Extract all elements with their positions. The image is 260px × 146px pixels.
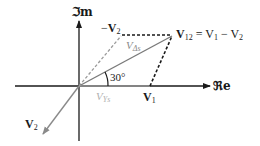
neg-v2-label: −V2 (101, 22, 120, 36)
phasor-svg (0, 0, 260, 146)
imag-axis-label: ℑm (72, 6, 93, 18)
angle-arc (105, 72, 108, 86)
real-axis-label: ℜe (213, 80, 231, 92)
angle-label: 30° (110, 72, 125, 83)
v2-vector (43, 86, 79, 134)
v1-label: V1 (143, 91, 156, 105)
v2-label: V2 (25, 118, 38, 132)
phasor-diagram: ℑm ℜe −V2 V12 = V1 − V2 VΔs 30° VYs V1 V… (0, 0, 260, 146)
v12-label: V12 = V1 − V2 (176, 28, 243, 42)
dashed-right-edge (150, 36, 172, 86)
v-delta-s-label: VΔs (126, 40, 141, 53)
v-y-s-label: VYs (96, 91, 110, 104)
